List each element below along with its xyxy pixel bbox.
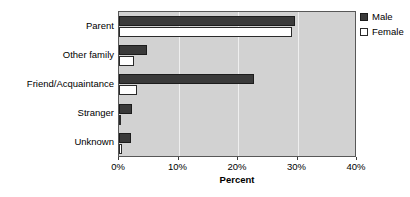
bar-female xyxy=(119,27,292,37)
legend-label: Male xyxy=(372,11,393,22)
male-swatch xyxy=(360,13,368,21)
x-axis: 0%10%20%30%40% xyxy=(118,157,356,173)
bar-group xyxy=(119,100,357,129)
x-axis-title: Percent xyxy=(118,174,356,185)
category-label: Unknown xyxy=(2,137,114,147)
bar-group xyxy=(119,129,357,158)
x-tick-mark xyxy=(356,157,357,160)
legend-label: Female xyxy=(372,26,404,37)
bar-chart: ParentOther familyFriend/AcquaintanceStr… xyxy=(0,0,410,197)
female-swatch xyxy=(360,28,368,36)
x-tick-label: 10% xyxy=(168,161,187,172)
bar-group xyxy=(119,70,357,99)
legend-item: Male xyxy=(360,10,404,23)
category-axis-labels: ParentOther familyFriend/AcquaintanceStr… xyxy=(0,11,114,157)
bar-male xyxy=(119,74,254,84)
chart-legend: MaleFemale xyxy=(360,10,404,40)
x-tick-mark xyxy=(118,157,119,160)
bar-male xyxy=(119,104,132,114)
x-tick-label: 30% xyxy=(287,161,306,172)
bar-female xyxy=(119,56,134,66)
bar-male xyxy=(119,16,295,26)
bar-male xyxy=(119,133,131,143)
legend-item: Female xyxy=(360,25,404,38)
bar-male xyxy=(119,45,147,55)
x-tick-mark xyxy=(178,157,179,160)
x-tick-mark xyxy=(237,157,238,160)
x-tick-label: 40% xyxy=(346,161,365,172)
category-label: Other family xyxy=(2,50,114,60)
category-label: Friend/Acquaintance xyxy=(2,79,114,89)
x-tick-mark xyxy=(297,157,298,160)
bar-female xyxy=(119,115,121,125)
bar-female xyxy=(119,85,137,95)
plot-area xyxy=(118,11,356,157)
category-label: Parent xyxy=(2,21,114,31)
bar-group xyxy=(119,12,357,41)
bar-group xyxy=(119,41,357,70)
x-tick-label: 0% xyxy=(111,161,125,172)
category-label: Stranger xyxy=(2,108,114,118)
bar-female xyxy=(119,144,122,154)
x-tick-label: 20% xyxy=(227,161,246,172)
